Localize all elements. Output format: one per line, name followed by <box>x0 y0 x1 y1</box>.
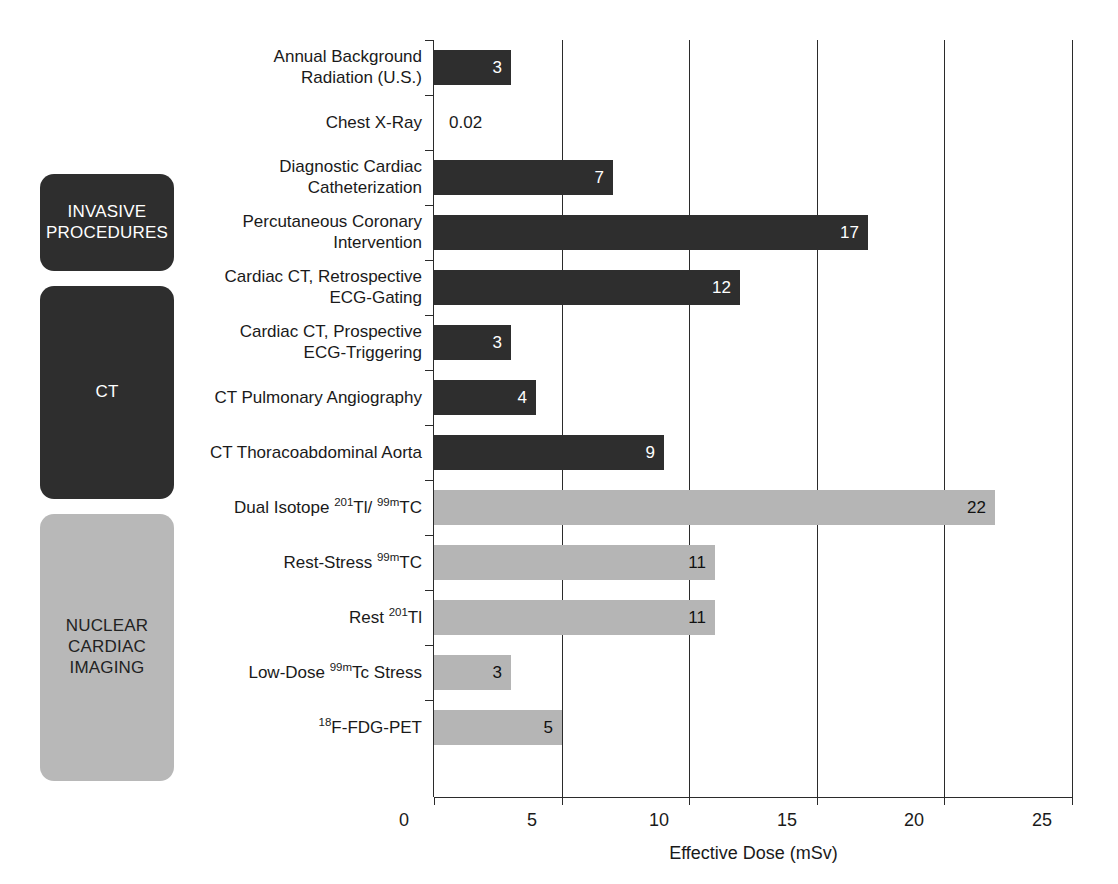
category-label: Chest X-Ray <box>92 112 422 133</box>
bar-value-label: 11 <box>434 545 715 580</box>
bar-row: 7 <box>434 150 1072 205</box>
y-tick-mark <box>425 535 434 536</box>
gridline-25 <box>1072 40 1073 797</box>
bar-value-label: 22 <box>434 490 995 525</box>
category-label: Rest-Stress 99mTC <box>92 552 422 573</box>
bar-chart: INVASIVE PROCEDURESCTNUCLEAR CARDIAC IMA… <box>0 0 1118 884</box>
y-tick-mark <box>425 150 434 151</box>
bar-row: 12 <box>434 260 1072 315</box>
x-tick-label-25: 25 <box>1012 810 1072 831</box>
bar-row: 4 <box>434 370 1072 425</box>
bar-value-label: 17 <box>434 215 868 250</box>
y-tick-mark <box>425 205 434 206</box>
bar-value-label: 9 <box>434 435 664 470</box>
bar-row: 3 <box>434 315 1072 370</box>
category-label: Dual Isotope 201Tl/ 99mTC <box>92 497 422 518</box>
category-label: Diagnostic CardiacCatheterization <box>92 156 422 199</box>
bar-value-label: 7 <box>434 160 613 195</box>
x-tick-5 <box>562 797 563 805</box>
bar-row: 11 <box>434 535 1072 590</box>
x-tick-label-5: 5 <box>502 810 562 831</box>
x-tick-10 <box>689 797 690 805</box>
y-tick-mark <box>425 370 434 371</box>
category-label: Annual BackgroundRadiation (U.S.) <box>92 46 422 89</box>
plot-area: 30.027171234922111135 <box>434 40 1072 797</box>
x-tick-label-15: 15 <box>757 810 817 831</box>
y-tick-mark <box>425 645 434 646</box>
bar-value-label: 3 <box>434 655 511 690</box>
y-tick-mark <box>425 425 434 426</box>
y-tick-mark <box>425 315 434 316</box>
x-tick-label-20: 20 <box>884 810 944 831</box>
bar-row: 3 <box>434 645 1072 700</box>
bar-value-label: 3 <box>434 325 511 360</box>
x-axis-line <box>434 797 1073 798</box>
x-tick-15 <box>817 797 818 805</box>
bar-row: 17 <box>434 205 1072 260</box>
x-tick-25 <box>1072 797 1073 805</box>
category-label: CT Thoracoabdominal Aorta <box>92 442 422 463</box>
category-label: CT Pulmonary Angiography <box>92 387 422 408</box>
bar-value-label: 0.02 <box>440 105 482 140</box>
x-tick-20 <box>944 797 945 805</box>
bar-value-label: 3 <box>434 50 511 85</box>
y-tick-mark <box>425 480 434 481</box>
bar-row: 22 <box>434 480 1072 535</box>
bar-value-label: 12 <box>434 270 740 305</box>
category-label: Low-Dose 99mTc Stress <box>92 662 422 683</box>
x-axis-title: Effective Dose (mSv) <box>434 843 1073 864</box>
category-label: Cardiac CT, RetrospectiveECG-Gating <box>92 266 422 309</box>
x-tick-0 <box>434 797 435 805</box>
bar-row: 5 <box>434 700 1072 755</box>
x-tick-label-10: 10 <box>629 810 689 831</box>
y-tick-mark <box>425 700 434 701</box>
bar-value-label: 5 <box>434 710 562 745</box>
category-label: Cardiac CT, ProspectiveECG-Triggering <box>92 321 422 364</box>
bar-row: 9 <box>434 425 1072 480</box>
bar-row: 11 <box>434 590 1072 645</box>
bar-row: 0.02 <box>434 95 1072 150</box>
bar-value-label: 11 <box>434 600 715 635</box>
bar-row: 3 <box>434 40 1072 95</box>
y-tick-mark <box>425 260 434 261</box>
category-label: Rest 201Tl <box>92 607 422 628</box>
bar-value-label: 4 <box>434 380 536 415</box>
category-label: 18F-FDG-PET <box>92 717 422 738</box>
y-tick-mark <box>425 590 434 591</box>
y-tick-mark <box>425 95 434 96</box>
category-label: Percutaneous CoronaryIntervention <box>92 211 422 254</box>
y-tick-mark <box>425 40 434 41</box>
x-tick-label-0: 0 <box>374 810 434 831</box>
